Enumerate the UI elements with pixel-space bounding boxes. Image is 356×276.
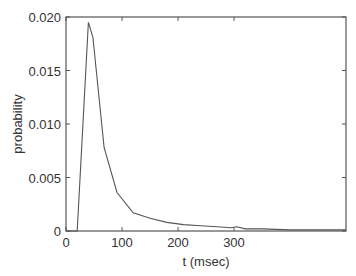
probability-curve bbox=[66, 22, 346, 231]
line-chart: 00.0050.0100.0150.020 0100200300 t (msec… bbox=[0, 0, 356, 276]
y-tick-label: 0.020 bbox=[28, 10, 61, 25]
y-tick-label: 0.015 bbox=[28, 64, 61, 79]
x-tick-label: 100 bbox=[111, 235, 133, 250]
y-tick-label: 0.005 bbox=[28, 171, 61, 186]
y-tick-label: 0.010 bbox=[28, 117, 61, 132]
x-axis: 0100200300 bbox=[62, 17, 244, 250]
y-axis-label: probability bbox=[10, 94, 25, 154]
y-tick-label: 0 bbox=[54, 224, 61, 239]
x-axis-label: t (msec) bbox=[183, 254, 230, 269]
y-axis: 00.0050.0100.0150.020 bbox=[28, 10, 346, 239]
plot-frame bbox=[66, 17, 346, 231]
x-tick-label: 300 bbox=[223, 235, 245, 250]
plot-border bbox=[66, 17, 346, 231]
x-tick-label: 0 bbox=[62, 235, 69, 250]
x-tick-label: 200 bbox=[167, 235, 189, 250]
